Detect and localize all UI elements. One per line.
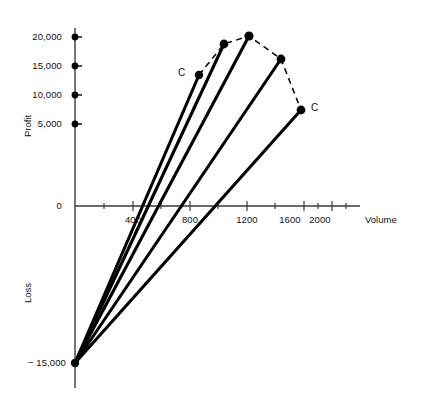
x-axis-title-volume: Volume	[365, 214, 397, 225]
y-axis-label-0: 0	[0, 200, 62, 211]
endpoint-marker-2	[220, 40, 229, 49]
profit-line-4	[75, 59, 281, 363]
y-axis-title-profit: Profit	[22, 115, 33, 137]
y-axis-title-loss: Loss	[22, 283, 33, 303]
y-axis-label-10000: 10,000	[0, 89, 62, 100]
endpoint-marker-5	[297, 106, 306, 115]
y-axis-label-15000: 15,000	[0, 60, 62, 71]
y-tick-marks	[71, 34, 82, 368]
x-axis-label-2000: 2000	[300, 214, 340, 225]
x-axis-label-800: 800	[170, 214, 210, 225]
y-axis-label-20000: 20,000	[0, 31, 62, 42]
profit-line-2	[75, 44, 224, 363]
endpoint-marker-1	[195, 71, 203, 79]
chart-canvas	[0, 0, 421, 394]
profit-volume-chart: 20,000 15,000 10,000 5,000 0 − 15,000 40…	[0, 0, 421, 394]
x-axis-label-400: 400	[113, 214, 153, 225]
profit-lines-group	[75, 36, 301, 363]
x-axis-label-1200: 1200	[227, 214, 267, 225]
endpoint-marker-3	[244, 31, 253, 40]
endpoint-marker-4	[277, 55, 286, 64]
series-label-c-right: C	[311, 102, 318, 113]
y-axis-label-neg15000: − 15,000	[0, 357, 66, 368]
series-label-c-left: C	[178, 67, 185, 78]
